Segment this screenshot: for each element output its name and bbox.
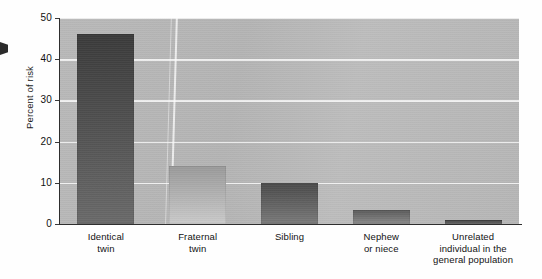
bar: [77, 34, 134, 224]
y-axis-tick-label: 30: [26, 94, 52, 105]
x-axis-tick-label: Unrelatedindividual in thegeneral popula…: [413, 231, 533, 266]
plot-area: [60, 18, 519, 224]
x-axis-line: [60, 224, 522, 225]
bar-chart-figure: Percent of risk 01020304050 Identicaltwi…: [0, 0, 542, 279]
bar: [261, 183, 318, 224]
y-axis-tick-label: 20: [26, 136, 52, 147]
x-axis-tick-label: Sibling: [240, 231, 340, 243]
bar: [169, 166, 226, 224]
y-axis-line: [59, 18, 60, 225]
y-axis-tick-label: 0: [26, 218, 52, 229]
x-axis-tick-label: Identicaltwin: [56, 231, 156, 254]
bar: [353, 210, 410, 224]
y-axis-tick-label: 40: [26, 53, 52, 64]
y-axis-tick-label: 50: [26, 12, 52, 23]
gridline: [60, 18, 519, 19]
y-axis-tick-label: 10: [26, 177, 52, 188]
scan-edge-mark: [0, 42, 8, 55]
x-axis-tick-label: Fraternaltwin: [148, 231, 248, 254]
